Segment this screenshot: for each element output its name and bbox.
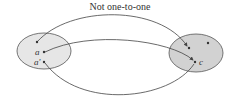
mapping-svg: a a' c	[0, 0, 233, 99]
label-a-prime: a'	[34, 57, 42, 67]
codomain-set	[169, 34, 223, 72]
domain-element-a-prime-dot	[43, 61, 45, 63]
codomain-element-dot-2	[207, 42, 209, 44]
diagram-title: Not one-to-one	[0, 1, 233, 12]
codomain-element-c-dot	[194, 61, 196, 63]
function-diagram: Not one-to-one a a' c	[0, 0, 233, 99]
mapping-arrow-a-prime-to-c	[45, 63, 194, 95]
domain-element-a-dot	[43, 51, 45, 53]
codomain-element-dot	[188, 47, 190, 49]
label-c: c	[199, 57, 203, 67]
domain-element-dot	[36, 41, 38, 43]
label-a: a	[35, 47, 40, 57]
